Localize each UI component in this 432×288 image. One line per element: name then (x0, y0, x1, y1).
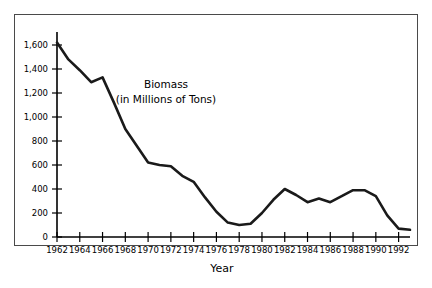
x-axis-tick-label: 1964 (69, 245, 91, 255)
x-axis-tick-label: 1970 (137, 245, 159, 255)
x-axis-title: Year (209, 262, 234, 275)
y-axis-tick-label: 1,600 (24, 40, 48, 50)
y-axis-tick-label: 800 (32, 136, 48, 146)
x-axis-tick-label: 1968 (115, 245, 137, 255)
x-axis-tick-label: 1976 (206, 245, 228, 255)
x-axis-tick-label: 1982 (274, 245, 296, 255)
y-axis-tick-label: 1,400 (24, 64, 48, 74)
x-axis-tick-label: 1992 (388, 245, 410, 255)
y-axis-tick-label: 1,200 (24, 88, 48, 98)
y-axis-tick-label: 200 (32, 208, 48, 218)
y-axis-tick-label: 600 (32, 160, 48, 170)
x-axis-tick-label: 1974 (183, 245, 205, 255)
x-axis-tick-label: 1978 (228, 245, 250, 255)
biomass-series-line (57, 43, 410, 230)
y-axis-tick-label: 0 (43, 232, 48, 242)
x-axis-tick-label: 1962 (46, 245, 68, 255)
x-axis-tick-labels: 1962196419661968197019721974197619781980… (46, 245, 409, 255)
x-axis-tick-label: 1966 (92, 245, 114, 255)
x-axis-tick-label: 1986 (319, 245, 341, 255)
biomass-line-chart: 02004006008001,0001,2001,4001,600 196219… (0, 0, 432, 288)
x-axis-tick-label: 1980 (251, 245, 273, 255)
x-axis-tick-label: 1988 (342, 245, 364, 255)
y-axis-tick-label: 400 (32, 184, 48, 194)
x-axis-tick-label: 1984 (297, 245, 319, 255)
y-axis-tick-label: 1,000 (24, 112, 48, 122)
x-axis-tick-label: 1972 (160, 245, 182, 255)
y-axis-tick-labels: 02004006008001,0001,2001,4001,600 (24, 40, 48, 242)
chart-annotation-line-2: (in Millions of Tons) (116, 93, 216, 105)
chart-annotation-line-1: Biomass (144, 78, 188, 90)
x-axis-tick-label: 1990 (365, 245, 387, 255)
